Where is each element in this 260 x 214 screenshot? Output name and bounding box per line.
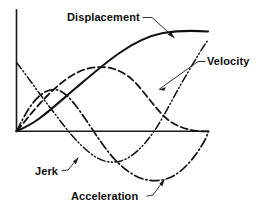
acceleration-label: Acceleration [71,191,138,202]
acceleration-leader [147,179,165,196]
displacement-curve [17,31,208,131]
jerk-label: Jerk [35,166,58,177]
displacement-leader [143,18,175,39]
velocity-curve [17,67,208,131]
motion-curves-figure: Displacement Velocity Jerk Acceleration [0,0,260,214]
displacement-label: Displacement [67,12,140,23]
plot-canvas [0,0,260,214]
jerk-leader [62,157,79,170]
velocity-label: Velocity [207,56,249,67]
velocity-leader [159,62,205,91]
